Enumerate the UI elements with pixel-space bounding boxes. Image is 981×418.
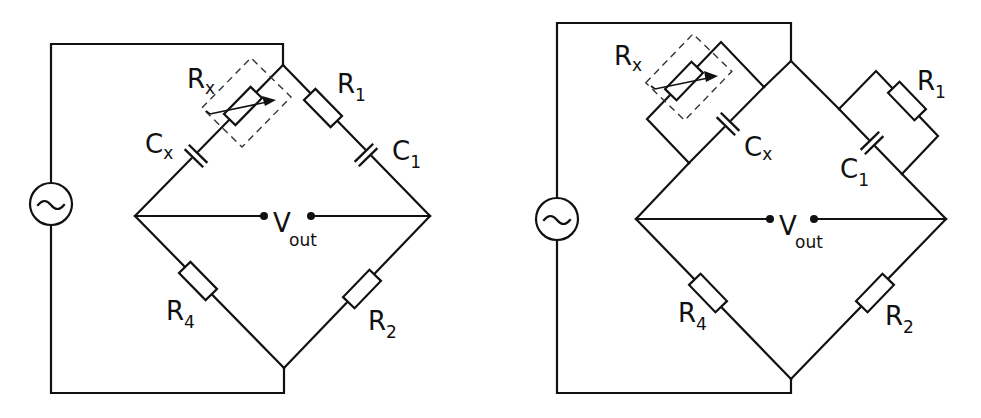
vout-terminal-right	[810, 215, 818, 223]
label-cx: Cx	[145, 129, 173, 163]
vout-terminal-right	[307, 212, 315, 220]
supply-wire-bottom	[557, 240, 791, 393]
resistor-rx	[224, 87, 262, 125]
label-c1: C1	[840, 154, 869, 190]
vout-terminal-left	[766, 215, 774, 223]
bridge-circuits-figure: Rx Cx R1 C1 R4 R2 Vout	[0, 0, 981, 418]
ac-source-icon	[536, 198, 578, 240]
wire-upper-left-arm-top	[764, 61, 791, 87]
label-rx: Rx	[614, 41, 642, 75]
label-rx: Rx	[187, 64, 215, 98]
label-r1: R1	[917, 66, 946, 102]
wire-upper-right-arm-top	[791, 61, 839, 109]
label-r2: R2	[885, 301, 914, 337]
label-r4: R4	[166, 296, 195, 332]
wire-upper-right-arm-bottom	[902, 174, 946, 219]
label-cx: Cx	[744, 132, 772, 164]
resistor-r2	[343, 270, 381, 308]
capacitor-cx	[183, 143, 209, 168]
resistor-r4	[179, 262, 217, 300]
label-r1: R1	[337, 69, 366, 105]
series-bridge-diagram: Rx Cx R1 C1 R4 R2 Vout	[30, 44, 430, 393]
vout-terminal-left	[260, 212, 268, 220]
wire-upper-left-arm-bottom	[636, 163, 689, 219]
label-r2: R2	[368, 306, 397, 342]
label-r4: R4	[678, 298, 707, 334]
capacitor-c1	[353, 142, 379, 167]
ac-source-icon	[30, 183, 72, 225]
parallel-bridge-diagram: Rx Cx R1 C1 R4 R2 Vout	[536, 23, 946, 393]
label-c1: C1	[392, 136, 421, 172]
